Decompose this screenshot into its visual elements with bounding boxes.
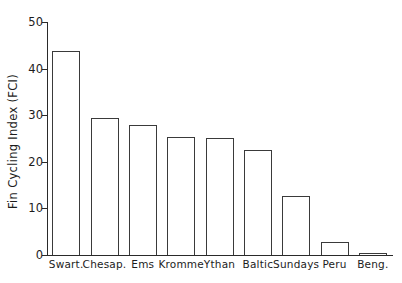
- bar: [244, 150, 272, 255]
- chart-figure: Fin Cycling Index (FCI) 01020304050 Swar…: [0, 0, 402, 283]
- x-tick-label: Kromme: [158, 258, 204, 270]
- bar: [206, 138, 234, 255]
- y-tick-label: 30: [28, 108, 43, 122]
- bar: [167, 137, 195, 255]
- y-tick-label: 0: [36, 248, 43, 262]
- x-tick-label: Chesap.: [83, 258, 127, 270]
- y-axis-line: [47, 22, 48, 256]
- x-tick-label: Swart.: [49, 258, 84, 270]
- y-tick-label: 10: [28, 201, 43, 215]
- x-tick-label: Peru: [322, 258, 346, 270]
- x-tick-label: Ems: [131, 258, 154, 270]
- bar: [359, 253, 387, 256]
- bar: [52, 51, 80, 255]
- x-axis-line: [47, 255, 393, 256]
- y-tick-label: 20: [28, 155, 43, 169]
- y-tick-label: 40: [28, 62, 43, 76]
- x-tick-label: Baltic: [243, 258, 274, 270]
- bar: [282, 196, 310, 255]
- bar: [321, 242, 349, 255]
- bar: [129, 125, 157, 255]
- y-axis-title: Fin Cycling Index (FCI): [0, 0, 26, 283]
- plot-area: 01020304050 Swart.Chesap.EmsKrommeYthanB…: [47, 22, 392, 255]
- y-tick-label: 50: [28, 15, 43, 29]
- x-tick-label: Sundays: [273, 258, 319, 270]
- x-tick-label: Ythan: [204, 258, 235, 270]
- x-tick-label: Beng.: [357, 258, 388, 270]
- bar: [91, 118, 119, 255]
